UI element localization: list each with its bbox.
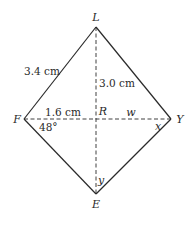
measurement-angle-F: 48° xyxy=(39,121,58,133)
kite-diagram: L F Y E R 3.4 cm 3.0 cm 1.6 cm 48° w x y xyxy=(0,0,196,225)
vertex-label-E: E xyxy=(91,198,100,211)
side-FE xyxy=(24,119,96,194)
vertex-label-F: F xyxy=(12,113,21,126)
kite-figure: L F Y E R 3.4 cm 3.0 cm 1.6 cm 48° w x y xyxy=(0,0,196,225)
measurement-side-FL: 3.4 cm xyxy=(24,65,60,77)
measurement-segment-LR: 3.0 cm xyxy=(99,77,135,89)
unknown-angle-y: y xyxy=(97,174,105,187)
measurement-segment-FR: 1.6 cm xyxy=(45,106,81,118)
unknown-angle-x: x xyxy=(155,120,162,133)
vertex-label-R: R xyxy=(98,105,107,118)
vertex-label-Y: Y xyxy=(176,113,185,126)
vertex-label-L: L xyxy=(91,11,99,24)
unknown-segment-w: w xyxy=(126,106,136,119)
